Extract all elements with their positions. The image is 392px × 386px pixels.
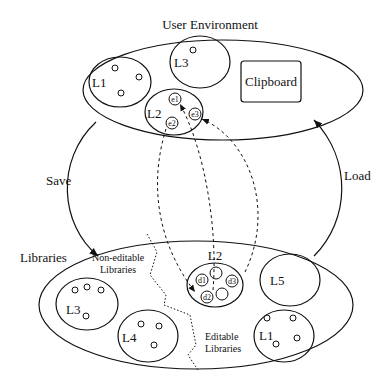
load-arrow [314,120,342,256]
save-arrow [67,122,98,256]
store-library-l4: L4 [118,310,178,362]
store-library-l3: L3 [56,278,118,330]
link-e2-d2 [158,129,195,292]
user-library-l3: L3 [170,36,230,88]
user-library-l1: L1 [89,57,151,107]
svg-text:L2: L2 [208,248,222,263]
svg-text:L5: L5 [270,273,284,288]
store-library-l2: L2 d1 d2 d3 [187,248,243,307]
element-e3: e3 [191,110,199,119]
element-e1: e1 [171,95,179,104]
user-environment-ellipse [83,40,363,140]
non-editable-label-2: Libraries [100,264,136,275]
store-library-l5: L5 [260,254,320,306]
svg-text:L3: L3 [66,302,80,317]
diagram-canvas: User Environment L1 L3 L2 e1 e2 e3 Clipb… [0,0,392,386]
editable-label-2: Libraries [205,343,241,354]
save-label: Save [46,173,72,188]
load-label: Load [344,168,371,183]
svg-text:L1: L1 [92,75,106,90]
libraries-ellipse [39,241,353,369]
element-d3: d3 [228,277,236,286]
element-d2: d2 [203,293,211,302]
editable-label-1: Editable [205,331,239,342]
svg-text:L2: L2 [147,106,161,121]
svg-text:L4: L4 [122,330,137,345]
svg-text:L1: L1 [259,328,273,343]
element-e2: e2 [168,119,176,128]
libraries-title: Libraries [20,250,67,265]
non-editable-label-1: Non-editable [92,252,145,263]
user-library-l2: L2 e1 e2 e3 [145,89,203,135]
user-environment-title: User Environment [162,17,258,32]
element-d1: d1 [198,276,206,285]
svg-text:Clipboard: Clipboard [245,74,297,89]
store-library-l1: L1 [254,310,314,362]
clipboard-box: Clipboard [241,61,301,102]
svg-text:L3: L3 [174,55,188,70]
